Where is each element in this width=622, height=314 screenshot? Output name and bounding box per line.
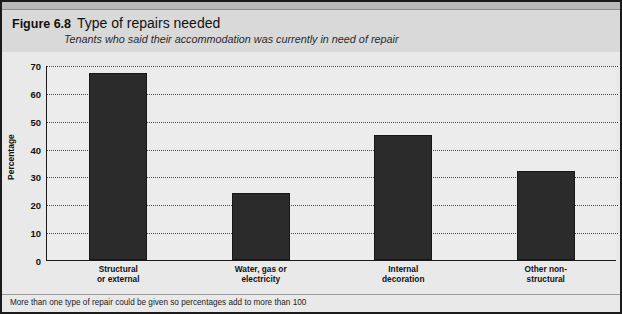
y-axis-tick-label: 30 xyxy=(30,172,41,183)
page-title: Type of repairs needed xyxy=(77,15,220,31)
x-axis-category-line: electricity xyxy=(190,274,333,284)
y-axis-tick-label: 40 xyxy=(30,144,41,155)
y-axis-label: Percentage xyxy=(6,134,16,180)
x-axis-category-line: Structural xyxy=(47,264,190,274)
plot-canvas: 010203040506070 Structuralor externalWat… xyxy=(46,66,616,261)
y-axis-tick-label: 70 xyxy=(30,61,41,72)
x-axis-category-line: structural xyxy=(475,274,618,284)
x-axis-category-line: Internal xyxy=(332,264,475,274)
bar xyxy=(374,135,432,260)
figure-title-line: Figure 6.8Type of repairs needed xyxy=(12,14,220,32)
figure-panel: Figure 6.8Type of repairs needed Tenants… xyxy=(0,0,622,314)
y-axis-tick-label: 50 xyxy=(30,116,41,127)
footnote-divider xyxy=(2,294,620,295)
bar xyxy=(517,171,575,260)
x-axis-category-line: Other non- xyxy=(475,264,618,274)
figure-footnote: More than one type of repair could be gi… xyxy=(10,298,306,307)
chart-area: Percentage 010203040506070 Structuralor … xyxy=(2,52,622,292)
x-axis-category-line: Water, gas or xyxy=(190,264,333,274)
figure-header: Figure 6.8Type of repairs needed Tenants… xyxy=(2,10,620,52)
y-axis-tick-label: 20 xyxy=(30,200,41,211)
x-axis-category-label: Other non-structural xyxy=(475,264,618,284)
figure-number: Figure 6.8 xyxy=(12,17,71,31)
y-axis-tick-label: 0 xyxy=(36,256,41,267)
x-axis-category-label: Structuralor external xyxy=(47,264,190,284)
top-strip xyxy=(2,2,620,10)
y-axis-tick-label: 60 xyxy=(30,88,41,99)
x-axis-category-line: decoration xyxy=(332,274,475,284)
bar xyxy=(89,73,147,260)
x-axis-category-line: or external xyxy=(47,274,190,284)
y-axis-tick-label: 10 xyxy=(30,228,41,239)
figure-subtitle: Tenants who said their accommodation was… xyxy=(64,33,398,45)
x-axis-category-label: Water, gas orelectricity xyxy=(190,264,333,284)
bar xyxy=(232,193,290,260)
x-axis-category-label: Internaldecoration xyxy=(332,264,475,284)
gridline xyxy=(47,66,618,67)
